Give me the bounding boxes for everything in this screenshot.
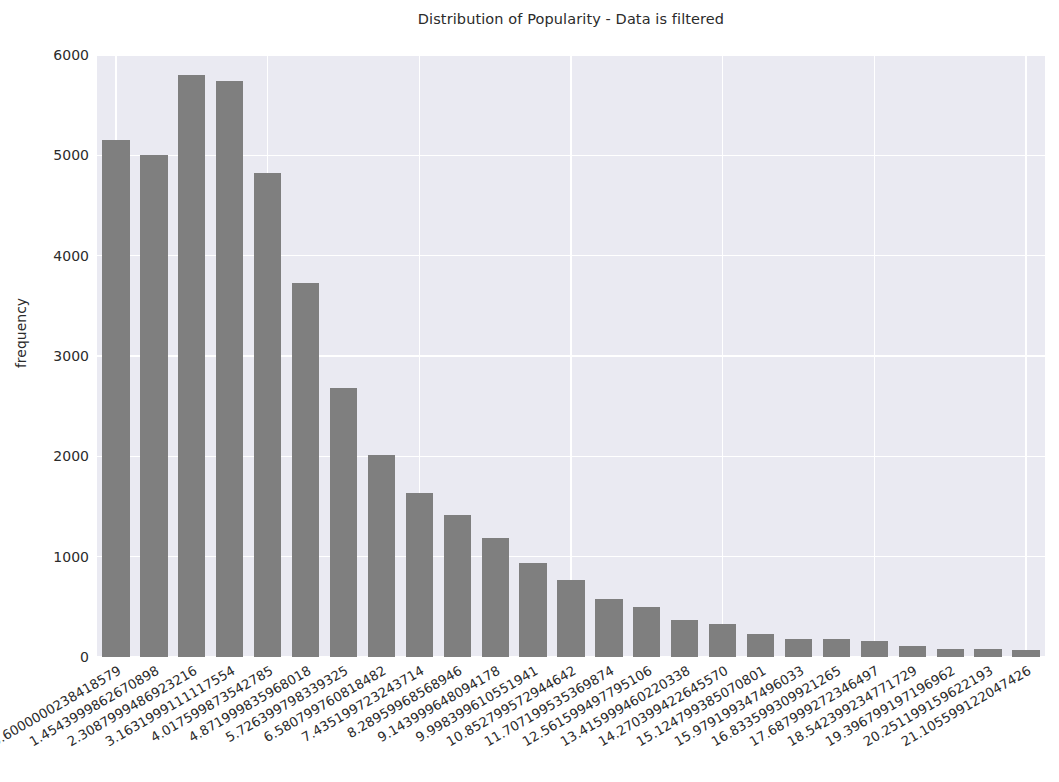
bar <box>747 634 774 657</box>
bar <box>861 641 888 657</box>
y-axis-tick-labels: 0100020003000400050006000 <box>0 55 89 657</box>
bar <box>671 620 698 657</box>
bar <box>482 538 509 657</box>
bar <box>330 388 357 657</box>
bar <box>292 283 319 657</box>
bar <box>633 607 660 657</box>
y-tick-label: 3000 <box>0 348 89 364</box>
bar <box>1012 650 1039 657</box>
bar <box>178 75 205 657</box>
y-tick-label: 5000 <box>0 147 89 163</box>
bar-series <box>97 55 1045 657</box>
chart-title: Distribution of Popularity - Data is fil… <box>97 11 1045 27</box>
bar <box>937 649 964 657</box>
bar <box>709 624 736 657</box>
x-axis-tick-labels: 0.60000002384185791.45439998626708982.30… <box>97 657 1045 782</box>
bar <box>557 580 584 657</box>
bar <box>519 563 546 657</box>
bar <box>216 81 243 657</box>
bar <box>595 599 622 657</box>
bar <box>368 455 395 657</box>
y-tick-label: 6000 <box>0 47 89 63</box>
bar <box>140 155 167 657</box>
y-tick-label: 4000 <box>0 248 89 264</box>
bar <box>102 140 129 657</box>
y-tick-label: 1000 <box>0 549 89 565</box>
bar <box>444 515 471 657</box>
y-tick-label: 0 <box>0 649 89 665</box>
bar <box>254 173 281 657</box>
chart-figure: Distribution of Popularity - Data is fil… <box>0 0 1059 782</box>
bar <box>823 639 850 657</box>
bar <box>974 649 1001 657</box>
bar <box>406 493 433 657</box>
y-tick-label: 2000 <box>0 448 89 464</box>
plot-area <box>97 55 1045 657</box>
bar <box>899 646 926 657</box>
bar <box>785 639 812 657</box>
